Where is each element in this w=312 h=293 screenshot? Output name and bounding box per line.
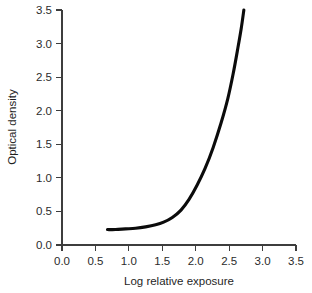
- x-tick-label: 2.0: [188, 255, 204, 267]
- x-tick-label: 0.0: [54, 255, 70, 267]
- y-axis-ticks: 0.00.51.01.52.02.53.03.5: [36, 4, 62, 251]
- y-tick-label: 0.0: [36, 239, 52, 251]
- x-tick-label: 0.5: [87, 255, 103, 267]
- x-tick-label: 3.0: [255, 255, 271, 267]
- chart-figure: 0.00.51.01.52.02.53.03.5 0.00.51.01.52.0…: [0, 0, 312, 293]
- y-tick-label: 0.5: [36, 205, 52, 217]
- y-tick-label: 3.0: [36, 38, 52, 50]
- y-tick-label: 3.5: [36, 4, 52, 16]
- y-tick-label: 1.5: [36, 138, 52, 150]
- x-tick-label: 1.0: [121, 255, 137, 267]
- x-tick-label: 2.5: [221, 255, 237, 267]
- y-tick-label: 2.0: [36, 105, 52, 117]
- chart-svg: 0.00.51.01.52.02.53.03.5 0.00.51.01.52.0…: [0, 0, 312, 293]
- y-axis-title: Optical density: [6, 89, 18, 165]
- data-curve-characteristic: [107, 10, 243, 230]
- y-tick-label: 2.5: [36, 71, 52, 83]
- x-axis-ticks: 0.00.51.01.52.02.53.03.5: [54, 245, 304, 267]
- x-axis-title: Log relative exposure: [124, 275, 234, 287]
- x-tick-label: 3.5: [288, 255, 304, 267]
- y-tick-label: 1.0: [36, 172, 52, 184]
- x-tick-label: 1.5: [154, 255, 170, 267]
